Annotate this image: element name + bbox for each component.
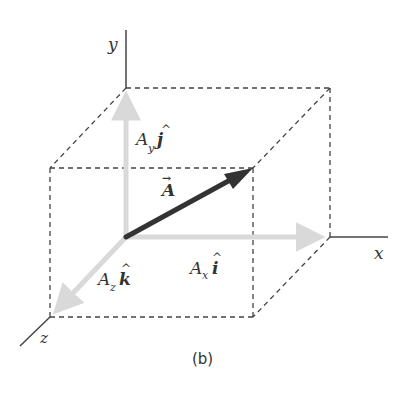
x-axis-label: x	[374, 243, 384, 263]
y-axis-label: y	[107, 34, 118, 54]
z-component-coef: A	[96, 269, 110, 289]
vector-a-name: A	[160, 180, 175, 200]
vector-a-shaft	[126, 179, 232, 237]
vector-components-diagram: y x z → A A y j ^ A x i ^ A z k ^ (b)	[0, 0, 416, 401]
z-axis-label: z	[39, 329, 48, 347]
y-component-label: A y j ^	[134, 123, 171, 155]
z-component-subscript: z	[109, 281, 116, 294]
y-component-hat: ^	[161, 123, 171, 137]
x-component-coef: A	[188, 258, 202, 278]
x-component-hat: ^	[212, 251, 222, 265]
vector-a-arrowhead	[224, 168, 253, 189]
z-component-arrow	[58, 237, 126, 309]
y-component-coef: A	[134, 129, 148, 149]
vector-a-label: → A	[160, 172, 175, 200]
x-component-subscript: x	[202, 269, 209, 282]
z-component-hat: ^	[121, 262, 131, 276]
figure-caption: (b)	[192, 350, 213, 368]
y-component-subscript: y	[147, 142, 155, 155]
x-component-label: A x i ^	[188, 251, 222, 282]
